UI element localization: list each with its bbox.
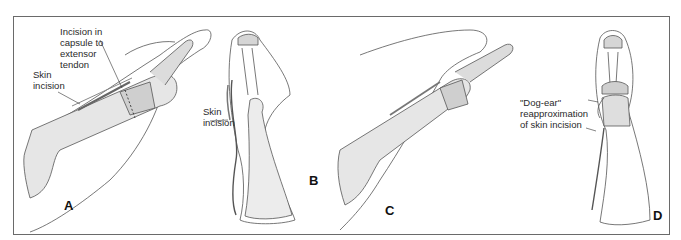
panel-label-c: C — [385, 203, 394, 218]
annotation-skin-incision-a: Skin incision — [33, 69, 65, 91]
panel-c-drawing — [338, 30, 513, 230]
panel-a-drawing — [24, 30, 211, 232]
panel-d-drawing — [586, 31, 650, 225]
annotation-dog-ear: "Dog-ear" reapproximation of skin incisi… — [520, 97, 588, 130]
annotation-capsule-incision: Incision in capsule to extensor tendon — [60, 26, 103, 70]
panel-label-b: B — [309, 173, 318, 188]
panel-label-d: D — [653, 208, 662, 223]
annotation-skin-incision-b: Skin incision — [203, 106, 235, 128]
panel-label-a: A — [64, 198, 73, 213]
